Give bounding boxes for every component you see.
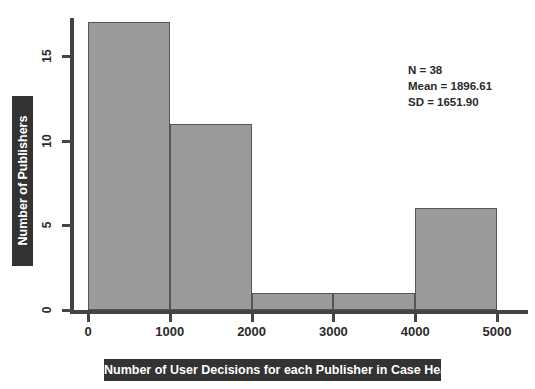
stats-mean-label: Mean = 1896.61 — [408, 78, 492, 94]
histogram-bar — [415, 208, 497, 310]
y-axis-title-box: Number of Publishers — [12, 96, 33, 266]
histogram-figure: 051015010002000300040005000 Number of Pu… — [0, 0, 535, 389]
histogram-bars — [0, 0, 535, 389]
stats-sd-label: SD = 1651.90 — [408, 94, 492, 110]
stats-n-label: N = 38 — [408, 62, 492, 78]
stats-annotation: N = 38 Mean = 1896.61 SD = 1651.90 — [408, 62, 492, 110]
histogram-bar — [252, 293, 334, 310]
x-axis-title-box: Number of User Decisions for each Publis… — [104, 359, 441, 381]
histogram-bar — [170, 124, 252, 310]
histogram-bar — [333, 293, 415, 310]
histogram-bar — [88, 22, 170, 310]
y-axis-title-label: Number of Publishers — [13, 96, 34, 266]
